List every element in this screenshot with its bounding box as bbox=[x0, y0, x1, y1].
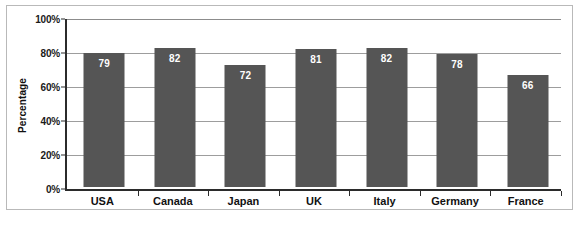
y-axis-tick-mark bbox=[61, 87, 65, 88]
x-axis-category-label: France bbox=[490, 195, 561, 207]
bar[interactable]: 78 bbox=[437, 54, 478, 187]
y-axis-title-label: Percentage bbox=[17, 78, 28, 133]
y-axis-tick-mark bbox=[61, 121, 65, 122]
x-axis-line bbox=[65, 189, 561, 191]
bar-value-label: 78 bbox=[437, 59, 478, 70]
bar[interactable]: 82 bbox=[154, 48, 195, 187]
bar-slot: 82 bbox=[140, 19, 211, 187]
x-axis-category-label: Canada bbox=[138, 195, 209, 207]
y-axis-tick-label: 20% bbox=[41, 150, 60, 161]
bar-slot: 66 bbox=[492, 19, 563, 187]
x-axis-tick-mark bbox=[561, 191, 562, 196]
y-axis-title: Percentage bbox=[15, 19, 29, 191]
chart-frame: Percentage 79827281827866 0%20%40%60%80%… bbox=[6, 5, 573, 210]
bar-value-label: 82 bbox=[154, 53, 195, 64]
y-axis-tick-label: 100% bbox=[35, 14, 60, 25]
bar-slot: 82 bbox=[351, 19, 422, 187]
y-axis-tick-label: 0% bbox=[46, 184, 60, 195]
bar-value-label: 72 bbox=[225, 70, 266, 81]
bar[interactable]: 72 bbox=[225, 65, 266, 187]
y-axis-tick-label: 40% bbox=[41, 116, 60, 127]
bar-slot: 72 bbox=[210, 19, 281, 187]
plot-area: 79827281827866 0%20%40%60%80%100% bbox=[65, 19, 561, 191]
y-axis-tick-mark bbox=[61, 19, 65, 20]
y-axis-tick-mark bbox=[61, 189, 65, 190]
bar-slot: 79 bbox=[69, 19, 140, 187]
bar-value-label: 81 bbox=[295, 54, 336, 65]
x-axis-category-label: Germany bbox=[420, 195, 491, 207]
y-axis-tick-mark bbox=[61, 53, 65, 54]
bar[interactable]: 79 bbox=[84, 53, 125, 187]
bar[interactable]: 82 bbox=[366, 48, 407, 187]
y-axis-tick-label: 60% bbox=[41, 82, 60, 93]
bar-value-label: 82 bbox=[366, 53, 407, 64]
bars-layer: 79827281827866 bbox=[69, 19, 561, 187]
plot-inner: 79827281827866 bbox=[67, 19, 561, 189]
bar-value-label: 79 bbox=[84, 58, 125, 69]
bar-slot: 78 bbox=[422, 19, 493, 187]
y-axis-tick-mark bbox=[61, 155, 65, 156]
x-axis-category-label: USA bbox=[67, 195, 138, 207]
bar-value-label: 66 bbox=[507, 80, 548, 91]
x-axis-category-label: Italy bbox=[349, 195, 420, 207]
y-axis-tick-label: 80% bbox=[41, 48, 60, 59]
bar[interactable]: 81 bbox=[295, 49, 336, 187]
x-axis-category-label: UK bbox=[279, 195, 350, 207]
bar-slot: 81 bbox=[281, 19, 352, 187]
x-axis-category-label: Japan bbox=[208, 195, 279, 207]
bar[interactable]: 66 bbox=[507, 75, 548, 187]
